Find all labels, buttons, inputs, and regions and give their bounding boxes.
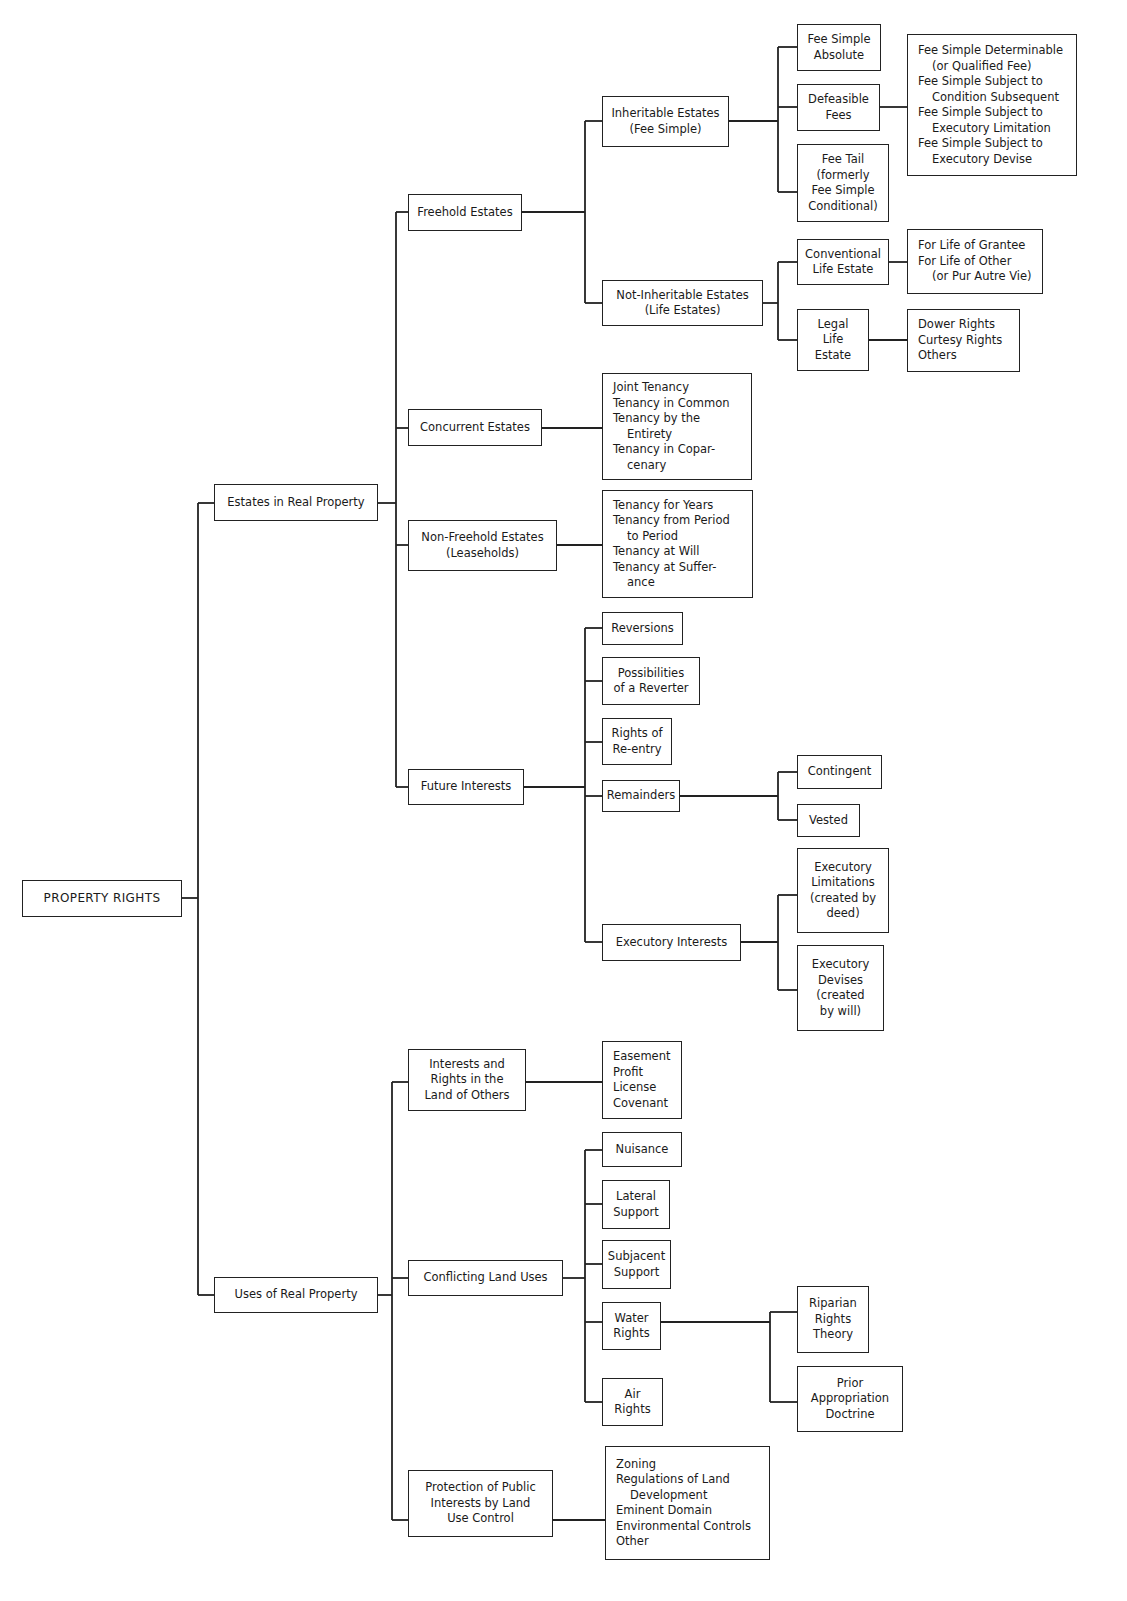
- list-line: For Life of Other: [918, 254, 1032, 270]
- list-line: Regulations of Land: [616, 1472, 751, 1488]
- list-interests-in-land-of-others: EasementProfitLicenseCovenant: [602, 1041, 682, 1119]
- list-line: Tenancy by the: [613, 411, 730, 427]
- list-line: Condition Subsequent: [918, 90, 1063, 106]
- node-fee-simple-absolute: Fee Simple Absolute: [797, 24, 881, 71]
- list-line: Fee Simple Subject to: [918, 105, 1063, 121]
- list-line: Executory Devise: [918, 152, 1063, 168]
- node-freehold-estates: Freehold Estates: [408, 194, 522, 231]
- list-line: Tenancy for Years: [613, 498, 730, 514]
- node-water-rights: Water Rights: [602, 1302, 661, 1350]
- list-line: Tenancy in Copar-: [613, 442, 730, 458]
- node-lateral-support: Lateral Support: [602, 1180, 670, 1229]
- list-line: (or Pur Autre Vie): [918, 269, 1032, 285]
- list-concurrent-estates: Joint TenancyTenancy in CommonTenancy by…: [602, 373, 752, 480]
- list-line: Others: [918, 348, 1002, 364]
- node-reversions: Reversions: [602, 612, 683, 645]
- list-line: Development: [616, 1488, 751, 1504]
- list-line: to Period: [613, 529, 730, 545]
- list-line: Eminent Domain: [616, 1503, 751, 1519]
- node-air-rights: Air Rights: [602, 1378, 663, 1426]
- list-defeasible-fees: Fee Simple Determinable(or Qualified Fee…: [907, 34, 1077, 176]
- node-vested: Vested: [797, 804, 860, 837]
- list-line: Entirety: [613, 427, 730, 443]
- list-line: For Life of Grantee: [918, 238, 1032, 254]
- list-line: Dower Rights: [918, 317, 1002, 333]
- list-line: Executory Limitation: [918, 121, 1063, 137]
- node-not-inheritable-estates: Not-Inheritable Estates (Life Estates): [602, 280, 763, 326]
- node-non-freehold-estates: Non-Freehold Estates (Leaseholds): [408, 520, 557, 571]
- node-rights-of-reentry: Rights of Re-entry: [602, 718, 672, 765]
- node-uses-of-real-property: Uses of Real Property: [214, 1277, 378, 1313]
- node-contingent: Contingent: [797, 755, 882, 789]
- node-conventional-life-estate: Conventional Life Estate: [797, 239, 889, 285]
- node-riparian-rights-theory: Riparian Rights Theory: [797, 1286, 869, 1353]
- list-line: Easement: [613, 1049, 670, 1065]
- list-line: Fee Simple Subject to: [918, 136, 1063, 152]
- list-line: Environmental Controls: [616, 1519, 751, 1535]
- list-line: Profit: [613, 1065, 670, 1081]
- list-non-freehold-estates: Tenancy for YearsTenancy from Periodto P…: [602, 490, 753, 598]
- node-estates-in-real-property: Estates in Real Property: [214, 484, 378, 521]
- list-line: Tenancy in Common: [613, 396, 730, 412]
- node-legal-life-estate: Legal Life Estate: [797, 309, 869, 371]
- node-defeasible-fees: Defeasible Fees: [797, 84, 880, 131]
- node-executory-limitations: Executory Limitations (created by deed): [797, 848, 889, 933]
- list-line: (or Qualified Fee): [918, 59, 1063, 75]
- list-line: Covenant: [613, 1096, 670, 1112]
- list-line: cenary: [613, 458, 730, 474]
- list-line: Tenancy at Will: [613, 544, 730, 560]
- list-line: Fee Simple Subject to: [918, 74, 1063, 90]
- node-concurrent-estates: Concurrent Estates: [408, 409, 542, 446]
- node-conflicting-land-uses: Conflicting Land Uses: [408, 1260, 563, 1296]
- list-line: Tenancy from Period: [613, 513, 730, 529]
- node-future-interests: Future Interests: [408, 769, 524, 805]
- node-interests-in-land-of-others: Interests and Rights in the Land of Othe…: [408, 1049, 526, 1111]
- node-prior-appropriation-doctrine: Prior Appropriation Doctrine: [797, 1366, 903, 1432]
- list-line: Tenancy at Suffer-: [613, 560, 730, 576]
- list-protection-of-public-interests: ZoningRegulations of LandDevelopmentEmin…: [605, 1446, 770, 1560]
- list-line: Curtesy Rights: [918, 333, 1002, 349]
- node-inheritable-estates: Inheritable Estates (Fee Simple): [602, 96, 729, 147]
- node-executory-devises: Executory Devises (created by will): [797, 945, 884, 1031]
- list-line: ance: [613, 575, 730, 591]
- list-line: Fee Simple Determinable: [918, 43, 1063, 59]
- node-remainders: Remainders: [602, 780, 680, 812]
- list-line: Other: [616, 1534, 751, 1550]
- list-line: Joint Tenancy: [613, 380, 730, 396]
- node-executory-interests: Executory Interests: [602, 924, 741, 961]
- list-line: License: [613, 1080, 670, 1096]
- list-line: Zoning: [616, 1457, 751, 1473]
- node-protection-of-public-interests: Protection of Public Interests by Land U…: [408, 1470, 553, 1537]
- node-possibilities-of-reverter: Possibilities of a Reverter: [602, 657, 700, 705]
- node-fee-tail: Fee Tail (formerly Fee Simple Conditiona…: [797, 144, 889, 222]
- list-conventional-life-estate: For Life of GranteeFor Life of Other(or …: [907, 229, 1043, 294]
- node-property-rights: PROPERTY RIGHTS: [22, 880, 182, 917]
- node-subjacent-support: Subjacent Support: [602, 1240, 671, 1289]
- list-legal-life-estate: Dower RightsCurtesy RightsOthers: [907, 309, 1020, 372]
- node-nuisance: Nuisance: [602, 1132, 682, 1167]
